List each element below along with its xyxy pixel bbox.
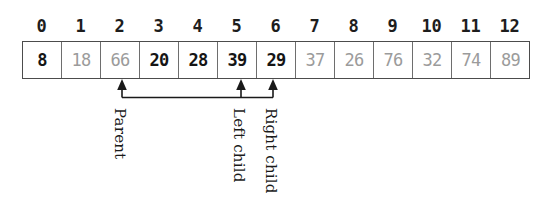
array-index-6: 6 — [256, 14, 295, 39]
array-index-10: 10 — [412, 14, 451, 39]
annotation-label-right-child: Right child — [262, 108, 280, 194]
array-cell-0: 8 — [23, 42, 62, 78]
array-index-1: 1 — [61, 14, 100, 39]
array-index-0: 0 — [22, 14, 61, 39]
array-index-5: 5 — [217, 14, 256, 39]
array-index-9: 9 — [373, 14, 412, 39]
left-child-arrowhead — [236, 79, 246, 90]
array-cell-9: 76 — [374, 42, 413, 78]
array-cells-container: 8 18 66 20 28 39 29 37 26 76 32 74 89 — [22, 41, 530, 79]
array-index-row: 0 1 2 3 4 5 6 7 8 9 10 11 12 — [22, 14, 530, 39]
annotation-label-left-child: Left child — [230, 108, 248, 182]
array-cell-7: 37 — [296, 42, 335, 78]
array-cell-3: 20 — [140, 42, 179, 78]
array-index-7: 7 — [295, 14, 334, 39]
array-cell-10: 32 — [413, 42, 452, 78]
array-cell-1: 18 — [62, 42, 101, 78]
pointer-arrows-svg — [0, 79, 560, 109]
array-index-12: 12 — [490, 14, 529, 39]
array-cell-12: 89 — [491, 42, 530, 78]
annotation-label-parent: Parent — [111, 108, 129, 159]
right-child-arrowhead — [268, 79, 278, 90]
pointer-bracket-layer — [0, 79, 560, 109]
array-index-4: 4 — [178, 14, 217, 39]
array-cell-11: 74 — [452, 42, 491, 78]
array-index-8: 8 — [334, 14, 373, 39]
array-cell-5: 39 — [218, 42, 257, 78]
array-cell-8: 26 — [335, 42, 374, 78]
array-heap-indexing-diagram: 0 1 2 3 4 5 6 7 8 9 10 11 12 8 18 66 20 … — [0, 0, 560, 223]
array-cell-6: 29 — [257, 42, 296, 78]
parent-arrowhead — [117, 79, 127, 90]
array-cell-4: 28 — [179, 42, 218, 78]
array-index-3: 3 — [139, 14, 178, 39]
array-index-2: 2 — [100, 14, 139, 39]
array-cell-2: 66 — [101, 42, 140, 78]
array-index-11: 11 — [451, 14, 490, 39]
